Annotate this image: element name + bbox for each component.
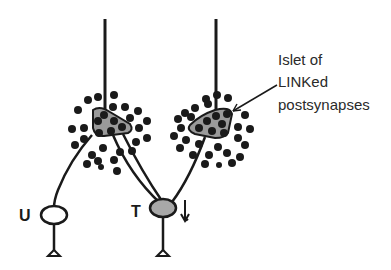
annotation-line-1: Islet of	[278, 51, 323, 68]
untrained-soma	[41, 206, 67, 224]
right-postsynaptic-neuron	[170, 19, 254, 168]
trained-terminal-icon	[157, 250, 169, 256]
untrained-neuron: U	[19, 206, 67, 256]
untrained-label: U	[19, 207, 31, 224]
neuron-diagram: Islet of LINKed postsynapses U T	[0, 0, 391, 270]
untrained-terminal-icon	[48, 250, 60, 256]
annotation-arrow	[233, 85, 277, 111]
annotation-line-3: postsynapses	[278, 96, 370, 113]
diagram-canvas: Islet of LINKed postsynapses U T	[0, 0, 391, 270]
trained-neuron: T	[131, 199, 189, 256]
left-postsynaptic-neuron	[68, 19, 151, 175]
activity-arrow-icon	[181, 200, 189, 221]
trained-soma	[150, 199, 176, 217]
annotation-line-2: LINKed	[278, 73, 328, 90]
trained-label: T	[131, 203, 141, 220]
